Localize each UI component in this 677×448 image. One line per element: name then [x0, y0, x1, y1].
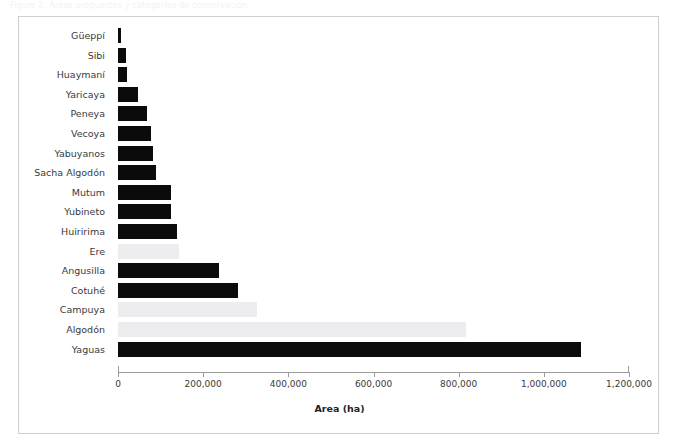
bar [118, 263, 219, 278]
bar-category-label: Cotuhé [19, 281, 111, 300]
x-axis-tick-label: 1,000,000 [521, 379, 567, 389]
bar-category-label: Campuya [19, 300, 111, 319]
bar [118, 87, 138, 102]
chart-panel: GüeppíSibiHuaymaníYaricayaPeneyaVecoyaYa… [18, 16, 659, 434]
bar [118, 185, 171, 200]
bar [118, 126, 151, 141]
x-axis-tick-label: 200,000 [185, 379, 222, 389]
bar [118, 342, 581, 357]
plot-area: GüeppíSibiHuaymaníYaricayaPeneyaVecoyaYa… [19, 17, 660, 435]
bar-row: Huaymaní [19, 65, 660, 84]
bar-row: Güeppí [19, 26, 660, 45]
x-axis-tick [374, 372, 375, 377]
bar [118, 28, 121, 43]
x-axis-tick [459, 372, 460, 377]
bar-row: Angusilla [19, 261, 660, 280]
x-axis-tick [544, 372, 545, 377]
bar-row: Cotuhé [19, 281, 660, 300]
bar-category-label: Yaricaya [19, 85, 111, 104]
figure-container: Figure 2. Áreas propuestas y categorías … [0, 0, 677, 448]
bar-category-label: Peneya [19, 104, 111, 123]
bar-category-label: Mutum [19, 183, 111, 202]
bar-category-label: Angusilla [19, 261, 111, 280]
bar [118, 224, 177, 239]
x-axis-tick-label: 800,000 [440, 379, 477, 389]
bar-category-label: Sibi [19, 46, 111, 65]
bar-category-label: Yubineto [19, 202, 111, 221]
bar-row: Vecoya [19, 124, 660, 143]
x-axis-tick [288, 372, 289, 377]
x-axis-tick-label: 0 [115, 379, 121, 389]
bar [118, 146, 153, 161]
x-axis-tick [203, 372, 204, 377]
bar [118, 48, 126, 63]
x-axis-tick [118, 372, 119, 377]
bar-category-label: Huiririma [19, 222, 111, 241]
bar-category-label: Ere [19, 242, 111, 261]
bar [118, 106, 147, 121]
bar-category-label: Algodón [19, 320, 111, 339]
bar-row: Yaricaya [19, 85, 660, 104]
bar-row: Huiririma [19, 222, 660, 241]
x-axis-title: Area (ha) [19, 403, 660, 414]
bar-row: Peneya [19, 104, 660, 123]
bar-row: Yubineto [19, 202, 660, 221]
bar [118, 244, 179, 259]
bar [118, 283, 238, 298]
figure-caption-fragment: Figure 2. Áreas propuestas y categorías … [10, 0, 410, 12]
bar-row: Mutum [19, 183, 660, 202]
bar-category-label: Huaymaní [19, 65, 111, 84]
bar-row: Yabuyanos [19, 144, 660, 163]
bar-row: Algodón [19, 320, 660, 339]
x-axis-tick [629, 372, 630, 377]
bar-category-label: Güeppí [19, 26, 111, 45]
bar [118, 302, 257, 317]
bar-row: Campuya [19, 300, 660, 319]
bar-category-label: Yaguas [19, 340, 111, 359]
bar [118, 322, 466, 337]
bar-row: Sibi [19, 46, 660, 65]
bar [118, 165, 156, 180]
bar-row: Yaguas [19, 340, 660, 359]
bar [118, 204, 171, 219]
bar-category-label: Vecoya [19, 124, 111, 143]
bar-row: Sacha Algodón [19, 163, 660, 182]
bar [118, 67, 127, 82]
x-axis-tick-label: 1,200,000 [606, 379, 652, 389]
bar-category-label: Yabuyanos [19, 144, 111, 163]
bar-row: Ere [19, 242, 660, 261]
x-axis-tick-label: 600,000 [355, 379, 392, 389]
bar-category-label: Sacha Algodón [19, 163, 111, 182]
x-axis-tick-label: 400,000 [270, 379, 307, 389]
